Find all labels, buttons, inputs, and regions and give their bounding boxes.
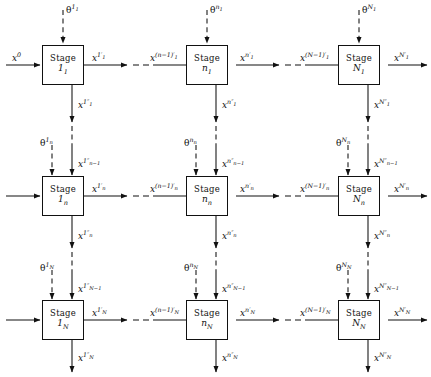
- x-label-r2-c3-out: xN′n: [394, 181, 409, 194]
- x-label-r3-c3-out: xN′N: [394, 305, 410, 318]
- theta-label-N-N: θNN: [336, 260, 351, 273]
- stage-box-1-n[interactable]: Stage 1n: [42, 176, 84, 216]
- x-label-v-c2-r3-out: xn″N: [222, 350, 238, 363]
- stage-box-n-1[interactable]: Stage n1: [186, 45, 228, 85]
- x-label-v-c1-r3-in: x1″N−1: [78, 281, 101, 294]
- stage-box-n-n[interactable]: Stage nn: [186, 176, 228, 216]
- x-label-v-c3-r3-out: xN″N: [374, 350, 391, 363]
- x-label-r3-c1-out: x1′N: [92, 305, 107, 318]
- x-label-v-c1-r3-out: x1″N: [78, 350, 94, 363]
- stage-label-word: Stage: [346, 53, 372, 63]
- stage-label-word: Stage: [50, 53, 76, 63]
- theta-label-1-N: θ1N: [40, 260, 54, 273]
- x-label-r3-c3-in: x(N−1)′N: [300, 305, 331, 318]
- theta-label-N-1: θN1: [362, 2, 376, 15]
- stage-label-index: nN: [201, 318, 212, 333]
- stage-box-n-N[interactable]: Stage nN: [186, 300, 228, 340]
- stage-label-index: 11: [58, 63, 68, 78]
- x-label-r1-c3-out: xN′1: [394, 50, 409, 63]
- x-label-v-c2-r3-in: xn″N−1: [222, 281, 245, 294]
- stage-label-word: Stage: [194, 53, 220, 63]
- x-label-r1-c3-in: x(N−1)′1: [300, 50, 329, 63]
- x-label-r3-c2-in: x(n−1)′N: [150, 305, 179, 318]
- stage-label-index: N1: [353, 63, 365, 78]
- x-label-v-c3-r2-out: xN″n: [374, 228, 390, 241]
- theta-label-1-n: θ1n: [40, 135, 53, 148]
- stage-box-N-N[interactable]: Stage NN: [338, 300, 380, 340]
- stage-label-index: 1n: [58, 194, 68, 209]
- stage-label-word: Stage: [50, 184, 76, 194]
- stage-label-index: n1: [202, 63, 212, 78]
- x-label-v-c2-r1-out: xn″1: [222, 97, 237, 110]
- stage-label-word: Stage: [50, 308, 76, 318]
- stage-label-index: Nn: [353, 194, 365, 209]
- stage-label-index: 1N: [57, 318, 68, 333]
- x-label-v-c2-r2-out: xn″n: [222, 228, 237, 241]
- x-label-r2-c1-out: x1′n: [92, 181, 106, 194]
- theta-label-n-n: θnn: [184, 135, 197, 148]
- x-label-r1-c2-in: x(n−1)′1: [150, 50, 178, 63]
- x-label-r1-c2-out: xn′1: [240, 50, 254, 63]
- x-label-v-c2-r2-in: xn″n−1: [222, 156, 244, 169]
- x-label-r2-c2-in: x(n−1)′n: [150, 181, 178, 194]
- x-label-v-c1-r2-out: x1″n: [78, 228, 93, 241]
- x-label-v-c3-r1-out: xN″1: [374, 97, 390, 110]
- x-label-r1-c1-out: x1′1: [92, 50, 106, 63]
- x-label-v-c1-r1-out: x1″1: [78, 97, 93, 110]
- x-label-r2-c2-out: xn′n: [240, 181, 254, 194]
- theta-label-1-1: θ11: [66, 2, 79, 15]
- stage-label-word: Stage: [194, 184, 220, 194]
- stage-box-1-N[interactable]: Stage 1N: [42, 300, 84, 340]
- stage-box-1-1[interactable]: Stage 11: [42, 45, 84, 85]
- x-label-v-c3-r3-in: xN″N−1: [374, 281, 399, 294]
- stage-label-word: Stage: [194, 308, 220, 318]
- theta-label-N-n: θNn: [336, 135, 350, 148]
- stage-box-N-1[interactable]: Stage N1: [338, 45, 380, 85]
- x-label-v-c1-r2-in: x1″n−1: [78, 156, 100, 169]
- x-label-input-0: x0: [12, 50, 21, 63]
- stage-label-word: Stage: [346, 184, 372, 194]
- stage-box-N-n[interactable]: Stage Nn: [338, 176, 380, 216]
- x-label-r2-c3-in: x(N−1)′n: [300, 181, 329, 194]
- stage-label-word: Stage: [346, 308, 372, 318]
- theta-label-n-1: θn1: [210, 2, 223, 15]
- x-label-v-c3-r2-in: xN″n−1: [374, 156, 398, 169]
- stage-label-index: nn: [202, 194, 212, 209]
- diagram-canvas: Stage 11 Stage n1 Stage N1 Stage 1n Stag…: [0, 0, 431, 377]
- stage-label-index: NN: [352, 318, 366, 333]
- theta-label-n-N: θnN: [184, 260, 198, 273]
- x-label-r3-c2-out: xn′N: [240, 305, 255, 318]
